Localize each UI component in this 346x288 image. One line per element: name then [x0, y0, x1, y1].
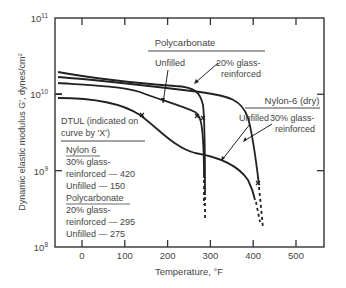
y-tick-label: 108: [34, 241, 49, 253]
dtul-markers: [140, 113, 260, 185]
modulus-temperature-chart: 0 100 200 300 400 500 Temperature, °F 10…: [0, 0, 346, 288]
dtul-pc-glass: 20% glass-: [66, 205, 111, 215]
dtul-nylon-heading: Nylon 6: [66, 145, 97, 155]
pc-header: Polycarbonate: [155, 37, 216, 48]
x-tick-label: 300: [202, 250, 218, 261]
x-tick-label: 500: [288, 250, 304, 261]
x-tick-label: 400: [245, 250, 261, 261]
dtul-heading: DTUL (indicated on: [61, 116, 138, 126]
y-tick-label: 1010: [30, 88, 48, 100]
nylon-glass-label-2: reinforced: [275, 124, 315, 134]
x-tick-label: 0: [79, 250, 84, 261]
arrow-nylon-unfilled: [222, 124, 250, 160]
dtul-nylon-glass: 30% glass-: [66, 157, 111, 167]
arrow-pc-glass: [195, 63, 218, 83]
x-axis-label: Temperature, °F: [155, 266, 223, 277]
dtul-nylon-unfilled: Unfilled — 150: [66, 181, 125, 191]
y-axis-label: Dynamic elastic modulus G', dynes/cm2: [17, 53, 27, 211]
nylon-unfilled-label: Unfilled: [239, 113, 269, 123]
pc-glass-label: 20% glass-: [216, 58, 261, 68]
y-tick-label: 1011: [31, 12, 49, 24]
pc-glass-label-2: reinforced: [221, 69, 261, 79]
dtul-pc-heading: Polycarbonate: [66, 193, 124, 203]
pc-unfilled-label: Unfilled: [155, 58, 185, 68]
dtul-pc-unfilled: Unfilled — 275: [66, 229, 125, 239]
x-tick-label: 100: [117, 250, 133, 261]
curve-nylon-unfilled-dashed: [256, 202, 260, 222]
dtul-heading-2: curve by 'X'): [61, 128, 110, 138]
dtul-pc-glass-2: reinforced — 295: [66, 217, 135, 227]
dtul-nylon-glass-2: reinforced — 420: [66, 169, 135, 179]
y-tick-label: 109: [34, 165, 49, 177]
x-ticks: [82, 18, 296, 247]
nylon-glass-label: 30% glass-: [270, 113, 315, 123]
x-tick-label: 200: [160, 250, 176, 261]
nylon-header: Nylon-6 (dry): [265, 95, 320, 106]
